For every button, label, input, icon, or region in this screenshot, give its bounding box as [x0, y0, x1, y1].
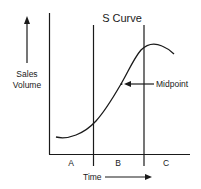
phase-label-a: A	[68, 158, 74, 168]
s-curve	[56, 44, 174, 137]
y-axis-label-line2: Volume	[13, 80, 42, 90]
diagram-title: S Curve	[102, 12, 142, 24]
y-axis-arrow-icon	[24, 16, 30, 63]
x-axis-arrow-icon	[105, 174, 152, 180]
s-curve-diagram: S Curve Sales Volume Midpoint A B C Time	[0, 0, 201, 189]
midpoint-label: Midpoint	[156, 79, 189, 89]
phase-label-b: B	[115, 158, 121, 168]
midpoint-dot	[121, 83, 123, 85]
x-axis-label: Time	[83, 172, 102, 182]
y-axis-label-line1: Sales	[16, 69, 37, 79]
phase-label-c: C	[163, 158, 169, 168]
midpoint-arrow-icon	[124, 81, 154, 87]
